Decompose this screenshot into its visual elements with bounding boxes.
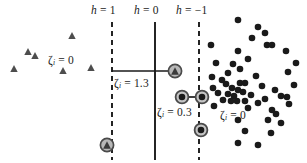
boundary-label-2: h = −1 bbox=[176, 4, 207, 16]
data-point-circle bbox=[225, 91, 232, 98]
data-point-circle bbox=[211, 103, 218, 110]
data-point-circle bbox=[269, 42, 276, 49]
circle-marker-group bbox=[208, 17, 300, 149]
boundary-label-value: = −1 bbox=[185, 4, 207, 16]
zeta-subscript: i bbox=[119, 81, 121, 90]
support-marker-circle bbox=[199, 94, 206, 101]
data-point-circle bbox=[259, 83, 266, 90]
boundary-label-symbol: h bbox=[91, 4, 97, 16]
data-point-circle bbox=[235, 17, 242, 24]
slack-right-zero: ζi = 0 bbox=[220, 109, 246, 122]
data-point-circle bbox=[225, 70, 232, 77]
data-point-triangle bbox=[87, 64, 94, 71]
boundary-label-0: h = 1 bbox=[91, 4, 116, 16]
zeta-subscript: i bbox=[162, 110, 164, 119]
data-point-circle bbox=[213, 60, 220, 67]
data-point-circle bbox=[255, 100, 262, 107]
data-point-circle bbox=[278, 93, 285, 100]
data-point-circle bbox=[215, 90, 222, 97]
data-point-circle bbox=[268, 130, 275, 137]
slack-violation-1: ζi = 1.3 bbox=[114, 77, 149, 90]
data-point-circle bbox=[255, 24, 262, 31]
data-point-circle bbox=[278, 120, 285, 127]
data-point-triangle bbox=[59, 67, 66, 74]
zeta-value: = 0 bbox=[58, 54, 74, 66]
zeta-value: = 0.3 bbox=[167, 106, 192, 118]
zeta-value: = 1.3 bbox=[124, 77, 149, 89]
data-point-circle bbox=[228, 98, 235, 105]
data-point-circle bbox=[237, 66, 244, 73]
data-point-circle bbox=[242, 98, 249, 105]
boundary-label-value: = 1 bbox=[100, 4, 116, 16]
support-marker-circle bbox=[179, 94, 186, 101]
boundary-label-symbol: h bbox=[176, 4, 182, 16]
data-point-circle bbox=[209, 74, 216, 81]
data-point-circle bbox=[223, 81, 230, 88]
data-point-circle bbox=[265, 117, 272, 124]
data-point-triangle bbox=[31, 52, 38, 59]
zeta-subscript: i bbox=[225, 113, 227, 122]
slack-left-zero: ζi = 0 bbox=[48, 54, 74, 67]
data-point-circle bbox=[249, 35, 256, 42]
boundary-label-1: h = 0 bbox=[134, 4, 159, 16]
data-point-circle bbox=[291, 82, 298, 89]
boundary-label-symbol: h bbox=[134, 4, 140, 16]
data-point-circle bbox=[242, 80, 249, 87]
data-point-circle bbox=[272, 87, 279, 94]
data-point-circle bbox=[255, 142, 262, 149]
data-point-circle bbox=[229, 85, 236, 92]
data-point-circle bbox=[240, 89, 247, 96]
data-point-triangle bbox=[68, 32, 75, 39]
data-point-circle bbox=[262, 96, 269, 103]
plot-canvas bbox=[0, 0, 307, 163]
data-point-circle bbox=[262, 30, 269, 37]
data-point-triangle bbox=[10, 65, 17, 72]
data-point-circle bbox=[234, 98, 241, 105]
data-point-circle bbox=[293, 60, 300, 67]
data-point-circle bbox=[235, 48, 242, 55]
data-point-circle bbox=[253, 73, 260, 80]
data-point-circle bbox=[285, 69, 292, 76]
data-point-circle bbox=[242, 128, 249, 135]
data-point-circle bbox=[235, 140, 242, 147]
data-point-circle bbox=[286, 101, 293, 108]
support-marker-circle bbox=[198, 127, 205, 134]
data-point-circle bbox=[273, 111, 280, 118]
data-point-triangle bbox=[24, 48, 31, 55]
boundary-label-value: = 0 bbox=[143, 4, 159, 16]
data-point-circle bbox=[220, 97, 227, 104]
zeta-subscript: i bbox=[53, 58, 55, 67]
slack-violation-2: ζi = 0.3 bbox=[157, 106, 192, 119]
data-point-circle bbox=[248, 92, 255, 99]
data-point-circle bbox=[245, 56, 252, 63]
data-point-circle bbox=[284, 94, 291, 101]
data-point-circle bbox=[230, 61, 237, 68]
svm-soft-margin-figure: h = 1h = 0h = −1 ζi = 0ζi = 1.3ζi = 0.3ζ… bbox=[0, 0, 307, 163]
zeta-value: = 0 bbox=[230, 109, 246, 121]
data-point-circle bbox=[210, 85, 217, 92]
data-point-circle bbox=[283, 48, 290, 55]
data-point-circle bbox=[208, 42, 215, 49]
